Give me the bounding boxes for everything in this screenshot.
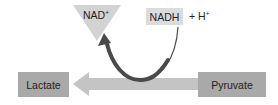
nadh-label: NADH <box>150 11 180 23</box>
h-plus-label: + H+ <box>189 10 209 22</box>
pyruvate-label: Pyruvate <box>211 79 252 91</box>
lactate-label: Lactate <box>26 79 60 91</box>
h-superscript: + <box>206 10 210 17</box>
pyruvate-box: Pyruvate <box>198 72 266 97</box>
nadh-box: NADH <box>146 8 183 25</box>
h-text: + H <box>189 10 206 22</box>
nadh-to-nad-curved-arrow <box>106 27 178 80</box>
nad-superscript: + <box>105 9 109 16</box>
curved-arrow-thick-body <box>107 44 168 80</box>
nad-plus-label: NAD+ <box>83 9 109 21</box>
lactate-box: Lactate <box>18 72 69 97</box>
nad-text: NAD <box>83 9 105 21</box>
pyruvate-to-lactate-arrow <box>73 72 200 96</box>
